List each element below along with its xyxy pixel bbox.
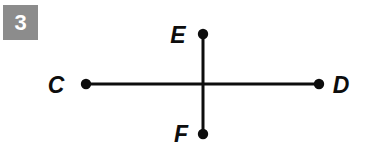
point-f-dot bbox=[198, 129, 208, 139]
point-e-dot bbox=[198, 29, 208, 39]
point-label-d: D bbox=[333, 72, 350, 98]
geometry-figure: C D E F bbox=[0, 0, 372, 160]
point-c-dot bbox=[81, 79, 91, 89]
point-label-c: C bbox=[48, 72, 65, 98]
point-label-e: E bbox=[170, 22, 186, 48]
point-d-dot bbox=[314, 79, 324, 89]
figure-page: 3 C D E F bbox=[0, 0, 372, 160]
point-label-f: F bbox=[174, 121, 189, 147]
